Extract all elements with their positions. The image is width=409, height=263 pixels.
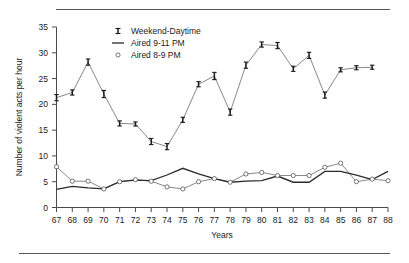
- chart-figure: 05101520253035 Number of violent acts pe…: [0, 0, 409, 263]
- data-point-marker: [102, 187, 106, 191]
- y-tick-label: 30: [39, 48, 49, 58]
- y-axis: 05101520253035 Number of violent acts pe…: [14, 22, 57, 213]
- series-markers-aired-8-9-pm: [54, 161, 390, 191]
- x-axis-tick-labels: 6768697071727374757677787980818283848586…: [52, 215, 393, 225]
- data-point-marker: [165, 185, 169, 189]
- line-chart-svg: 05101520253035 Number of violent acts pe…: [0, 0, 409, 263]
- x-axis-title: Years: [211, 230, 232, 240]
- y-tick-label: 5: [43, 177, 48, 187]
- x-tick-label: 77: [210, 215, 220, 225]
- x-tick-label: 67: [52, 215, 62, 225]
- y-tick-label: 10: [39, 151, 49, 161]
- x-tick-label: 81: [273, 215, 283, 225]
- data-point-marker: [323, 165, 327, 169]
- data-point-marker: [149, 179, 153, 183]
- x-tick-label: 76: [194, 215, 204, 225]
- y-axis-tick-marks: [52, 27, 57, 208]
- aired-8-9-pm-path: [57, 163, 389, 189]
- x-tick-label: 68: [68, 215, 78, 225]
- x-tick-label: 73: [146, 215, 156, 225]
- y-axis-tick-labels: 05101520253035: [39, 22, 49, 213]
- open-circle-icon: [116, 53, 120, 57]
- data-point-marker: [70, 179, 74, 183]
- x-axis-tick-marks: [57, 208, 389, 213]
- data-point-marker: [291, 173, 295, 177]
- x-tick-label: 88: [383, 215, 393, 225]
- legend-entry-aired-9-11-pm: Aired 9-11 PM: [112, 38, 185, 48]
- x-tick-label: 72: [131, 215, 141, 225]
- x-tick-label: 85: [336, 215, 346, 225]
- data-point-marker: [307, 173, 311, 177]
- series-markers-weekend-daytime: [54, 42, 374, 150]
- data-point-marker: [244, 172, 248, 176]
- x-tick-label: 71: [115, 215, 125, 225]
- data-point-marker: [275, 173, 279, 177]
- data-point-marker: [354, 180, 358, 184]
- legend-label-aired-9-11-pm: Aired 9-11 PM: [131, 38, 185, 48]
- x-tick-label: 78: [225, 215, 235, 225]
- x-tick-label: 70: [99, 215, 109, 225]
- aired-9-11-pm-path: [57, 168, 389, 189]
- series-line-aired-8-9-pm: [57, 163, 389, 189]
- data-point-marker: [228, 180, 232, 184]
- x-tick-label: 82: [289, 215, 299, 225]
- data-point-marker: [212, 177, 216, 181]
- x-tick-label: 80: [257, 215, 267, 225]
- y-tick-label: 25: [39, 74, 49, 84]
- x-tick-label: 83: [304, 215, 314, 225]
- x-tick-label: 74: [162, 215, 172, 225]
- x-tick-label: 69: [83, 215, 93, 225]
- x-tick-label: 79: [241, 215, 251, 225]
- data-point-marker: [260, 170, 264, 174]
- y-tick-label: 0: [43, 203, 48, 213]
- data-point-marker: [181, 187, 185, 191]
- y-axis-title: Number of violent acts per hour: [14, 58, 24, 177]
- legend-label-weekend-daytime: Weekend-Daytime: [131, 26, 201, 36]
- data-point-marker: [133, 178, 137, 182]
- y-tick-label: 15: [39, 125, 49, 135]
- data-point-marker: [54, 165, 58, 169]
- legend-label-aired-8-9-pm: Aired 8-9 PM: [131, 50, 181, 60]
- chart-legend: Weekend-Daytime Aired 9-11 PM Aired 8-9 …: [112, 26, 201, 60]
- data-point-marker: [370, 177, 374, 181]
- series-line-aired-9-11-pm: [57, 168, 389, 189]
- x-axis: 6768697071727374757677787980818283848586…: [52, 208, 393, 241]
- x-tick-label: 87: [367, 215, 377, 225]
- x-tick-label: 86: [352, 215, 362, 225]
- data-point-marker: [196, 180, 200, 184]
- data-point-marker: [118, 180, 122, 184]
- y-tick-label: 20: [39, 99, 49, 109]
- legend-entry-aired-8-9-pm: Aired 8-9 PM: [116, 50, 181, 60]
- x-tick-label: 84: [320, 215, 330, 225]
- data-point-marker: [86, 179, 90, 183]
- data-point-marker: [339, 161, 343, 165]
- x-tick-label: 75: [178, 215, 188, 225]
- y-tick-label: 35: [39, 22, 49, 32]
- data-point-marker: [386, 179, 390, 183]
- legend-entry-weekend-daytime: Weekend-Daytime: [116, 26, 202, 36]
